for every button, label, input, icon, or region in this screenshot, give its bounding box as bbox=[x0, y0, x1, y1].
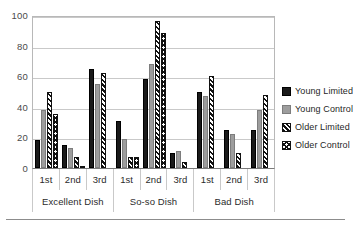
legend-item-label: Older Limited bbox=[295, 123, 350, 132]
y-axis-tick-label: 40 bbox=[0, 103, 28, 113]
bar[interactable] bbox=[80, 166, 85, 168]
bar[interactable] bbox=[230, 134, 235, 168]
category-tick-label: 3rd bbox=[87, 169, 114, 190]
category-tick-label: 3rd bbox=[167, 169, 194, 190]
category-axis: 1st2nd3rd1st2nd3rd1st2nd3rd Excellent Di… bbox=[32, 169, 275, 212]
bar-group bbox=[249, 17, 276, 168]
bar[interactable] bbox=[203, 96, 208, 168]
bar[interactable] bbox=[134, 157, 139, 168]
chart-legend: Young LimitedYoung ControlOlder LimitedO… bbox=[282, 82, 351, 154]
category-group-label: So-so Dish bbox=[114, 190, 195, 212]
plot-area bbox=[32, 16, 275, 169]
bar[interactable] bbox=[47, 92, 52, 169]
bar[interactable] bbox=[161, 33, 166, 168]
y-axis-tick-label: 60 bbox=[0, 72, 28, 82]
legend-item[interactable]: Older Limited bbox=[282, 118, 351, 136]
bar-group bbox=[195, 17, 222, 168]
bar[interactable] bbox=[101, 73, 106, 168]
bar-group bbox=[60, 17, 87, 168]
legend-item-label: Young Control bbox=[295, 105, 353, 114]
legend-swatch-young-limited-icon bbox=[282, 87, 291, 96]
bars-layer bbox=[33, 17, 274, 168]
legend-swatch-older-control-icon bbox=[282, 141, 291, 150]
bar[interactable] bbox=[35, 140, 40, 168]
bar[interactable] bbox=[209, 76, 214, 168]
bar[interactable] bbox=[128, 157, 133, 168]
bar[interactable] bbox=[155, 21, 160, 168]
bar-group bbox=[168, 17, 195, 168]
y-axis-tick-label: 0 bbox=[0, 164, 28, 174]
bar[interactable] bbox=[62, 145, 67, 168]
legend-swatch-older-limited-icon bbox=[282, 123, 291, 132]
category-axis-sub-row: 1st2nd3rd1st2nd3rd1st2nd3rd bbox=[32, 169, 275, 190]
bar-group bbox=[222, 17, 249, 168]
y-axis-tick-label: 20 bbox=[0, 134, 28, 144]
bar[interactable] bbox=[224, 130, 229, 168]
category-tick-label: 3rd bbox=[248, 169, 275, 190]
legend-item-label: Older Control bbox=[295, 141, 350, 150]
bar-group bbox=[87, 17, 114, 168]
legend-swatch-young-control-icon bbox=[282, 105, 291, 114]
bar-group bbox=[114, 17, 141, 168]
category-group-label: Excellent Dish bbox=[32, 190, 114, 212]
bar[interactable] bbox=[236, 153, 241, 168]
bar[interactable] bbox=[122, 139, 127, 168]
y-axis-tick-label: 80 bbox=[0, 42, 28, 52]
bar[interactable] bbox=[89, 69, 94, 168]
bar[interactable] bbox=[74, 157, 79, 168]
bar[interactable] bbox=[116, 121, 121, 168]
bar[interactable] bbox=[95, 84, 100, 168]
bottom-divider bbox=[6, 219, 345, 220]
category-tick-label: 1st bbox=[194, 169, 221, 190]
bar[interactable] bbox=[41, 110, 46, 168]
plot-wrapper: 020406080100 1st2nd3rd1st2nd3rd1st2nd3rd… bbox=[0, 0, 276, 212]
legend-item[interactable]: Young Limited bbox=[282, 82, 351, 100]
bar[interactable] bbox=[251, 130, 256, 168]
bar[interactable] bbox=[53, 114, 58, 168]
bar-group bbox=[33, 17, 60, 168]
bar[interactable] bbox=[176, 151, 181, 168]
category-tick-label: 2nd bbox=[141, 169, 168, 190]
bar[interactable] bbox=[143, 79, 148, 168]
category-group-label: Bad Dish bbox=[194, 190, 275, 212]
bar[interactable] bbox=[170, 153, 175, 168]
bar[interactable] bbox=[197, 92, 202, 169]
y-axis-tick-label: 100 bbox=[0, 11, 28, 21]
category-tick-label: 1st bbox=[114, 169, 141, 190]
category-axis-main-row: Excellent DishSo-so DishBad Dish bbox=[32, 190, 275, 212]
legend-item[interactable]: Young Control bbox=[282, 100, 351, 118]
bar[interactable] bbox=[263, 95, 268, 168]
bar-group bbox=[141, 17, 168, 168]
category-tick-label: 2nd bbox=[60, 169, 87, 190]
bar[interactable] bbox=[68, 148, 73, 168]
legend-item[interactable]: Older Control bbox=[282, 136, 351, 154]
legend-item-label: Young Limited bbox=[295, 87, 353, 96]
category-tick-label: 2nd bbox=[221, 169, 248, 190]
bar[interactable] bbox=[257, 110, 262, 168]
category-tick-label: 1st bbox=[32, 169, 60, 190]
y-axis-tick-labels: 020406080100 bbox=[0, 0, 28, 175]
bar[interactable] bbox=[149, 64, 154, 168]
bar[interactable] bbox=[182, 162, 187, 168]
